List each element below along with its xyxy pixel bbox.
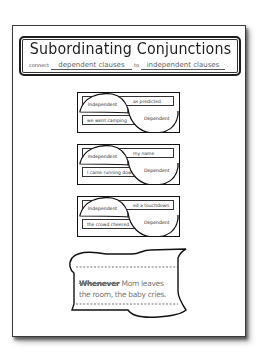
sentence-line-2: the room, the baby cries. (79, 290, 166, 299)
blank-dependent-clauses: dependent clauses (51, 61, 132, 70)
dependent-label: Dependent (144, 168, 169, 173)
title-banner: Subordinating Conjunctions connect depen… (19, 36, 241, 76)
clause-card-2: my name I came running dow Independent D… (77, 144, 180, 185)
conjunction-word: Whenever (79, 279, 119, 288)
clause-card-3: ed a touchdown the crowd cheered Indepen… (77, 196, 180, 237)
worksheet-subtitle: connect dependent clauses to independent… (29, 61, 231, 70)
blank-independent-clauses: independent clauses (141, 61, 225, 70)
venn-overlap-icon (78, 93, 180, 133)
worksheet-title: Subordinating Conjunctions (30, 40, 231, 58)
venn-overlap-icon (78, 197, 180, 237)
independent-label: Independent (88, 102, 117, 107)
sentence-line-1: Mom leaves (119, 279, 163, 288)
dependent-label: Dependent (144, 116, 169, 121)
subtitle-prefix: connect (29, 62, 49, 68)
venn-overlap-icon (78, 145, 180, 185)
independent-label: Independent (88, 154, 117, 159)
dependent-label: Dependent (144, 220, 169, 225)
subtitle-middle: to (134, 62, 139, 68)
independent-label: Independent (88, 206, 117, 211)
flag-sentence: Whenever Mom leaves the room, the baby c… (79, 279, 189, 300)
subtitle-suffix: . (227, 62, 229, 68)
clause-card-1: as predicted we went camping Independent… (77, 92, 180, 133)
